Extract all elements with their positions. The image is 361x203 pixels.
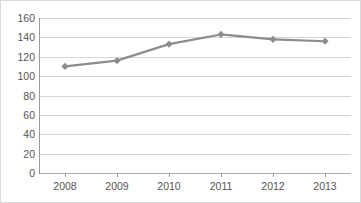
line-chart-figure: 0204060801001201401602008200920102011201… xyxy=(0,0,361,203)
x-tick-label: 2012 xyxy=(245,180,301,192)
x-tick-label: 2013 xyxy=(297,180,353,192)
x-tick-label: 2009 xyxy=(89,180,145,192)
data-point-marker xyxy=(321,38,328,45)
data-point-marker xyxy=(217,31,224,38)
x-tick-label: 2011 xyxy=(193,180,249,192)
data-point-marker xyxy=(165,41,172,48)
y-tick-label: 60 xyxy=(0,109,35,121)
y-tick-label: 40 xyxy=(0,128,35,140)
x-tick-mark xyxy=(325,173,326,177)
x-tick-label: 2008 xyxy=(37,180,93,192)
x-tick-mark xyxy=(65,173,66,177)
x-tick-mark xyxy=(273,173,274,177)
y-tick-label: 120 xyxy=(0,51,35,63)
y-tick-label: 20 xyxy=(0,148,35,160)
series-markers xyxy=(61,31,328,70)
y-tick-label: 80 xyxy=(0,90,35,102)
data-point-marker xyxy=(61,63,68,70)
series-line-0 xyxy=(65,34,325,66)
y-tick-label: 0 xyxy=(0,167,35,179)
x-tick-mark xyxy=(221,173,222,177)
data-point-marker xyxy=(113,57,120,64)
series-layer xyxy=(1,1,361,203)
y-tick-label: 100 xyxy=(0,70,35,82)
x-tick-label: 2010 xyxy=(141,180,197,192)
data-point-marker xyxy=(269,36,276,43)
x-tick-mark xyxy=(117,173,118,177)
x-tick-mark xyxy=(169,173,170,177)
y-tick-label: 140 xyxy=(0,31,35,43)
y-tick-label: 160 xyxy=(0,12,35,24)
